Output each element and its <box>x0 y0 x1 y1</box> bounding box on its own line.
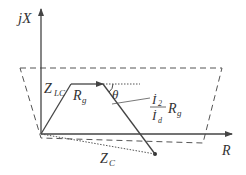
r-g-label: R <box>72 88 82 103</box>
r-axis-label: R <box>221 143 231 158</box>
fraction-denominator-subscript: d <box>158 116 163 125</box>
z-c-subscript: C <box>109 158 116 168</box>
theta-label: θ <box>112 87 119 102</box>
dashed-operating-region <box>20 68 222 143</box>
fraction-denominator: İ <box>151 108 157 123</box>
r-g-subscript: g <box>82 95 87 105</box>
jx-axis-label: jX <box>16 10 32 26</box>
fraction-r-g-label: R <box>167 101 177 116</box>
z-c-vector <box>41 134 155 154</box>
current-ratio-vector <box>103 84 155 154</box>
fraction-numerator: İ <box>151 92 157 107</box>
z-c-label: Z <box>100 151 108 166</box>
impedance-diagram: jX R Z LC R g θ İ 2 İ d R g Z C <box>0 0 246 175</box>
z-lc-subscript: LC <box>53 88 66 98</box>
fraction-r-g-subscript: g <box>177 108 182 118</box>
fraction-numerator-subscript: 2 <box>158 99 162 108</box>
z-lc-label: Z <box>44 81 52 96</box>
